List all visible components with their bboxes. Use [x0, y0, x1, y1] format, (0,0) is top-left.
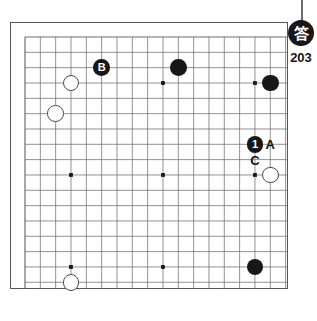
- answer-number: 203: [288, 50, 314, 65]
- stone-black[interactable]: [262, 75, 279, 92]
- stone-black[interactable]: [170, 59, 187, 76]
- star-point: [69, 265, 73, 269]
- star-point: [69, 173, 73, 177]
- star-point: [253, 81, 257, 85]
- stone-black-B[interactable]: B: [93, 59, 110, 76]
- point-label-C: C: [250, 152, 259, 167]
- stone-label: 1: [247, 136, 264, 153]
- stone-black-1[interactable]: 1: [247, 136, 264, 153]
- star-point: [161, 81, 165, 85]
- star-point: [161, 265, 165, 269]
- stone-white[interactable]: [63, 274, 80, 291]
- stone-white[interactable]: [47, 105, 64, 122]
- star-point: [253, 173, 257, 177]
- star-point: [161, 173, 165, 177]
- answer-badge-glyph: 答: [294, 26, 309, 41]
- answer-badge-icon[interactable]: 答: [288, 20, 314, 46]
- badge-stem: [301, 0, 303, 22]
- stone-label: B: [93, 59, 110, 76]
- go-board[interactable]: B1 AC: [10, 22, 288, 289]
- point-label-A: A: [266, 137, 275, 152]
- stone-white[interactable]: [262, 167, 279, 184]
- board-grid: [10, 22, 288, 289]
